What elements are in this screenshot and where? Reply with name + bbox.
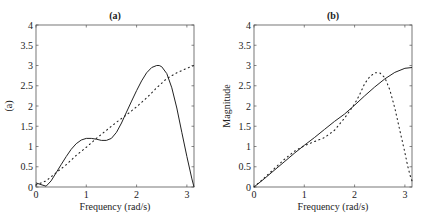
y-tick-label: 0 <box>246 182 251 193</box>
y-tick-label: 1 <box>28 141 33 152</box>
axes-box <box>254 25 412 187</box>
chart-panel-0: 012300.511.522.533.54(a)Frequency (rad/s… <box>3 10 194 213</box>
y-tick-label: 3.5 <box>21 40 34 51</box>
y-tick-label: 2.5 <box>21 80 34 91</box>
series-solid <box>36 66 194 188</box>
chart-title: (a) <box>109 10 121 22</box>
y-tick-label: 1 <box>246 141 251 152</box>
x-tick-label: 2 <box>352 189 357 200</box>
y-tick-label: 1.5 <box>21 121 34 132</box>
axes-box <box>36 25 194 187</box>
x-tick-label: 1 <box>84 189 89 200</box>
x-tick-label: 1 <box>302 189 307 200</box>
y-tick-label: 3 <box>28 60 33 71</box>
x-axis-label: Frequency (rad/s) <box>298 201 369 213</box>
y-tick-label: 3 <box>246 60 251 71</box>
series-solid <box>254 68 412 188</box>
x-tick-label: 3 <box>184 189 189 200</box>
y-tick-label: 3.5 <box>239 40 252 51</box>
y-tick-label: 0 <box>28 182 33 193</box>
y-tick-label: 0.5 <box>239 161 252 172</box>
series-dotted <box>254 73 412 187</box>
x-axis-label: Frequency (rad/s) <box>80 201 151 213</box>
x-tick-label: 0 <box>252 189 257 200</box>
y-tick-label: 4 <box>246 20 251 31</box>
y-tick-label: 1.5 <box>239 121 252 132</box>
y-axis-label: Magnitude <box>221 84 232 128</box>
y-tick-label: 2 <box>28 101 33 112</box>
y-axis-label: (a) <box>3 100 15 111</box>
y-tick-label: 0.5 <box>21 161 34 172</box>
x-tick-label: 2 <box>134 189 139 200</box>
x-tick-label: 3 <box>402 189 407 200</box>
y-tick-label: 2.5 <box>239 80 252 91</box>
x-tick-label: 0 <box>34 189 39 200</box>
chart-title: (b) <box>327 10 339 22</box>
chart-panel-1: 012300.511.522.533.54(b)Frequency (rad/s… <box>221 10 412 213</box>
y-tick-label: 2 <box>246 101 251 112</box>
figure: 012300.511.522.533.54(a)Frequency (rad/s… <box>0 0 423 224</box>
y-tick-label: 4 <box>28 20 33 31</box>
